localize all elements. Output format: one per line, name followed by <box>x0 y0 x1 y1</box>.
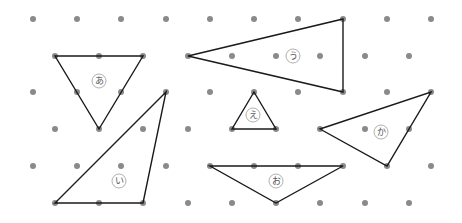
grid-dot <box>30 16 36 22</box>
grid-dot <box>273 53 279 59</box>
triangles <box>55 19 431 203</box>
triangle-label: か <box>374 125 388 139</box>
label-text: お <box>272 176 281 186</box>
grid-dot <box>251 16 257 22</box>
grid-dot <box>229 200 235 206</box>
grid-dot <box>362 126 368 132</box>
label-text: え <box>249 110 258 120</box>
grid-dot <box>317 200 323 206</box>
grid-dot <box>163 16 169 22</box>
triangle-1 <box>55 56 143 129</box>
triangle-label: え <box>246 108 260 122</box>
dot-grid-diagram: あいうえおか <box>0 0 462 223</box>
grid-dot <box>229 53 235 59</box>
grid-dot <box>185 126 191 132</box>
grid-dot <box>74 16 80 22</box>
grid-dot <box>185 200 191 206</box>
label-text: い <box>115 176 124 186</box>
label-text: う <box>289 51 298 61</box>
grid-dot <box>74 163 80 169</box>
grid-dot <box>362 53 368 59</box>
triangle-label: い <box>112 174 126 188</box>
grid-dot <box>406 53 412 59</box>
grid-dot <box>140 126 146 132</box>
grid-dot <box>30 163 36 169</box>
grid-dot <box>317 53 323 59</box>
grid-dot <box>295 16 301 22</box>
diagram-canvas: あいうえおか <box>0 0 462 223</box>
grid-dot <box>406 200 412 206</box>
grid-dot <box>362 200 368 206</box>
triangle-label: あ <box>92 74 106 88</box>
grid-dot <box>30 89 36 95</box>
label-text: あ <box>95 76 104 86</box>
triangle-label: う <box>286 49 300 63</box>
grid-dot <box>295 89 301 95</box>
grid-dot <box>428 16 434 22</box>
grid-dot <box>207 16 213 22</box>
grid-dot <box>207 89 213 95</box>
grid-dot <box>428 163 434 169</box>
grid-dot <box>384 89 390 95</box>
grid-dot <box>52 126 58 132</box>
grid-dot <box>384 16 390 22</box>
triangle-label: お <box>269 174 283 188</box>
grid-dot <box>163 163 169 169</box>
grid-dot <box>118 163 124 169</box>
grid-dot <box>118 16 124 22</box>
label-text: か <box>377 127 386 137</box>
